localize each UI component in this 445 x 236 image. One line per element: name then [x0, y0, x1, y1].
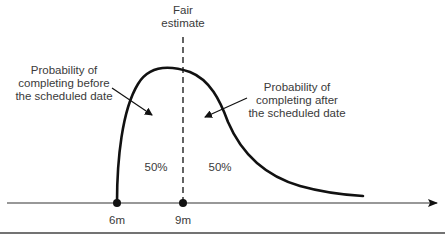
- axis-point-6m: [113, 199, 121, 207]
- axis-point-9m: [179, 199, 187, 207]
- left-annotation-line1: Probability of: [14, 64, 114, 77]
- left-annotation-line3: the scheduled date: [14, 90, 114, 103]
- left-annotation-line2: completing before: [14, 77, 114, 90]
- left-annotation-arrow: [112, 88, 152, 115]
- fair-estimate-label-line1: Fair: [158, 4, 208, 17]
- axis-label-6m: 6m: [102, 214, 132, 227]
- axis-label-9m: 9m: [168, 214, 198, 227]
- right-area-percent: 50%: [204, 161, 236, 174]
- right-annotation-label: Probability of completing after the sche…: [247, 81, 347, 120]
- fair-estimate-label: Fair estimate: [158, 4, 208, 30]
- right-annotation-line3: the scheduled date: [247, 107, 347, 120]
- left-annotation-label: Probability of completing before the sch…: [14, 64, 114, 103]
- fair-estimate-label-line2: estimate: [158, 17, 208, 30]
- left-area-percent: 50%: [140, 161, 172, 174]
- right-annotation-line1: Probability of: [247, 81, 347, 94]
- right-annotation-line2: completing after: [247, 94, 347, 107]
- diagram-canvas: [0, 0, 445, 236]
